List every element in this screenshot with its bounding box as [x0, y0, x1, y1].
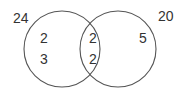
left-set-circle [24, 11, 100, 87]
left-only-value-1: 2 [40, 30, 48, 46]
venn-diagram: 24 20 2 3 2 2 5 [0, 0, 181, 90]
intersection-value-1: 2 [89, 30, 97, 46]
intersection-value-2: 2 [89, 51, 97, 67]
right-only-value-1: 5 [139, 30, 147, 46]
left-set-total-label: 24 [13, 10, 29, 26]
left-only-value-2: 3 [40, 51, 48, 67]
right-set-total-label: 20 [158, 8, 174, 24]
right-set-circle [80, 11, 156, 87]
